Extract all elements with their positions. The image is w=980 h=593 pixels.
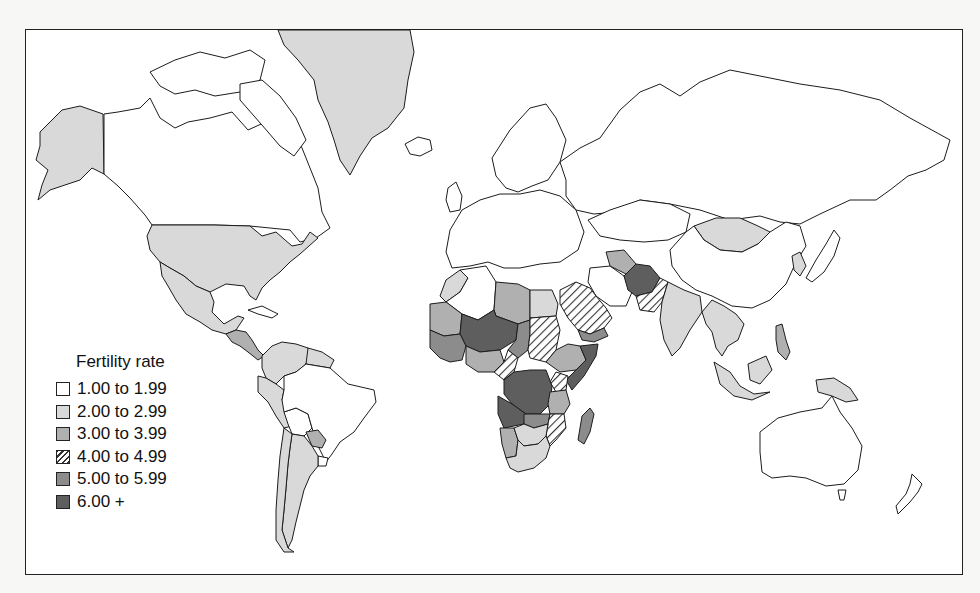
region-indonesia <box>714 356 772 400</box>
region-madagascar <box>578 408 594 444</box>
region-central-america <box>226 330 264 360</box>
region-east-africa-hatch <box>550 372 568 392</box>
region-japan <box>806 230 840 282</box>
legend-label: 1.00 to 1.99 <box>77 379 167 399</box>
legend-swatch <box>56 450 70 464</box>
legend-item: 1.00 to 1.99 <box>56 378 167 401</box>
region-cuba <box>248 306 278 318</box>
legend-swatch <box>56 472 70 486</box>
legend-item: 4.00 to 4.99 <box>56 446 167 469</box>
legend-item: 5.00 to 5.99 <box>56 468 167 491</box>
region-mozambique <box>546 414 566 446</box>
legend-label: 4.00 to 4.99 <box>77 447 167 467</box>
region-tasmania <box>838 490 846 500</box>
legend-label: 2.00 to 2.99 <box>77 402 167 422</box>
region-southeast-asia <box>702 300 744 356</box>
region-uk <box>446 182 462 212</box>
legend-item: 2.00 to 2.99 <box>56 401 167 424</box>
legend-title: Fertility rate <box>76 352 167 372</box>
region-korea <box>792 252 806 276</box>
legend-label: 6.00 + <box>77 492 125 512</box>
region-egypt <box>530 290 558 318</box>
region-australia <box>760 396 862 486</box>
region-india <box>660 282 702 356</box>
legend-swatch <box>56 495 70 509</box>
legend-label: 5.00 to 5.99 <box>77 469 167 489</box>
legend-swatch <box>56 382 70 396</box>
region-europe <box>446 190 584 268</box>
region-papua-new-guinea <box>816 378 858 402</box>
legend-item: 3.00 to 3.99 <box>56 423 167 446</box>
region-philippines <box>776 324 790 360</box>
legend-label: 3.00 to 3.99 <box>77 424 167 444</box>
legend-swatch <box>56 427 70 441</box>
region-iceland <box>405 137 432 156</box>
region-scandinavia <box>492 104 566 192</box>
region-uruguay <box>318 456 328 466</box>
region-russia <box>560 70 950 224</box>
region-kenya-tanzania <box>548 390 570 414</box>
legend-swatch <box>56 405 70 419</box>
legend: Fertility rate 1.00 to 1.992.00 to 2.993… <box>56 352 167 513</box>
legend-item: 6.00 + <box>56 491 167 514</box>
region-new-zealand <box>896 474 922 514</box>
region-alaska <box>36 106 104 200</box>
